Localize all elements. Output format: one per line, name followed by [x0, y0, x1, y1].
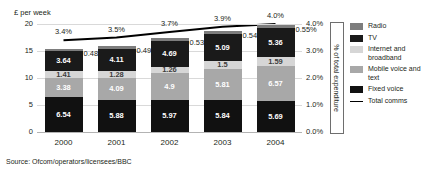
right-axis-title: % of total expenditure	[330, 22, 344, 134]
legend-item[interactable]: Radio	[350, 22, 426, 31]
x-axis-tick: 2002	[151, 138, 189, 147]
bar-segment-internet[interactable]: 1.26	[151, 67, 189, 74]
bar-segment-tv[interactable]: 5.09	[204, 34, 242, 61]
bar-segment-fixed[interactable]: 5.88	[98, 100, 136, 132]
bar-segment-value: 5.69	[268, 113, 283, 121]
legend-swatch-icon	[350, 23, 363, 30]
total-comms-percent-label: 3.7%	[161, 20, 178, 28]
bar-segment-value: 4.09	[109, 85, 124, 93]
legend-swatch-icon	[350, 35, 363, 42]
bar-segment-internet[interactable]: 1.59	[257, 57, 295, 66]
source-note: Source: Ofcom/operators/licensees/BBC	[6, 158, 132, 165]
bar-segment-value: 5.97	[162, 112, 177, 120]
legend-swatch-icon	[350, 98, 363, 105]
left-axis-title: £ per week	[14, 8, 51, 17]
x-axis-tick: 2001	[98, 138, 136, 147]
bar-segment-tv[interactable]: 5.36	[257, 28, 295, 57]
x-axis-tick: 2003	[204, 138, 242, 147]
legend-label: Total comms	[368, 97, 407, 106]
gridline	[37, 132, 302, 133]
bar-segment-value: 6.57	[268, 80, 283, 88]
total-comms-percent-label: 3.4%	[55, 28, 72, 36]
bar-segment-fixed[interactable]: 5.84	[204, 100, 242, 132]
x-axis-tick: 2000	[45, 138, 83, 147]
legend-item[interactable]: TV	[350, 34, 426, 43]
chart-container: £ per week 00.0%51.0%102.0%153.0%204.0%3…	[0, 0, 426, 179]
bar-segment-value: 5.36	[268, 39, 283, 47]
radio-value-callout: 0.54	[243, 32, 258, 40]
bar-group[interactable]: 4.111.284.095.88	[98, 46, 136, 132]
legend-item[interactable]: Total comms	[350, 97, 426, 106]
y-axis-tick-left: 20	[25, 20, 33, 28]
bar-segment-mobile[interactable]: 6.57	[257, 66, 295, 101]
legend-label: Mobile voice and text	[368, 65, 426, 82]
total-comms-percent-label: 3.5%	[108, 26, 125, 34]
bar-segment-value: 5.09	[215, 44, 230, 52]
bar-segment-value: 4.69	[162, 50, 177, 58]
bar-group[interactable]: 5.361.596.575.69	[257, 25, 295, 132]
bar-segment-mobile[interactable]: 4.09	[98, 78, 136, 100]
legend-label: Internet and broadband	[368, 45, 426, 62]
y-axis-tick-right: 1.0%	[306, 101, 323, 109]
bar-segment-mobile[interactable]: 5.81	[204, 69, 242, 100]
legend-label: Radio	[368, 22, 386, 31]
legend-item[interactable]: Mobile voice and text	[350, 65, 426, 82]
bar-segment-value: 5.88	[109, 112, 124, 120]
bar-segment-tv[interactable]: 3.64	[45, 51, 83, 71]
legend-label: Fixed voice	[368, 85, 403, 94]
y-axis-tick-left: 0	[29, 128, 33, 136]
y-axis-tick-right: 2.0%	[306, 74, 323, 82]
bar-group[interactable]: 3.641.413.386.54	[45, 49, 83, 132]
legend-swatch-icon	[350, 86, 363, 93]
bar-segment-value: 5.81	[215, 81, 230, 89]
bar-group[interactable]: 4.691.264.95.97	[151, 38, 189, 132]
bar-segment-tv[interactable]: 4.11	[98, 49, 136, 71]
bar-segment-fixed[interactable]: 5.97	[151, 100, 189, 132]
radio-value-callout: 0.55%	[296, 26, 317, 34]
bar-segment-value: 3.38	[56, 84, 71, 92]
chart-legend: RadioTVInternet and broadbandMobile voic…	[350, 22, 426, 108]
bar-segment-value: 5.84	[215, 112, 230, 120]
y-axis-tick-left: 15	[25, 47, 33, 55]
legend-swatch-icon	[350, 46, 363, 53]
bar-segment-value: 4.11	[109, 56, 123, 64]
bar-segment-fixed[interactable]: 5.69	[257, 101, 295, 132]
bar-segment-value: 1.59	[268, 58, 283, 66]
total-comms-percent-label: 4.0%	[267, 12, 284, 20]
bar-segment-mobile[interactable]: 4.9	[151, 73, 189, 99]
radio-value-callout: 0.48	[84, 50, 99, 58]
bar-segment-value: 1.41	[56, 71, 71, 79]
bar-segment-value: 1.5	[217, 61, 227, 69]
y-axis-tick-left: 10	[25, 74, 33, 82]
x-axis-tick: 2004	[257, 138, 295, 147]
radio-value-callout: 0.49	[137, 47, 152, 55]
radio-value-callout: 0.53	[190, 39, 205, 47]
y-axis-tick-right: 3.0%	[306, 47, 323, 55]
legend-swatch-icon	[350, 66, 363, 73]
bar-segment-mobile[interactable]: 3.38	[45, 78, 83, 96]
legend-item[interactable]: Internet and broadband	[350, 45, 426, 62]
bar-segment-value: 4.9	[164, 83, 174, 91]
plot-area: 00.0%51.0%102.0%153.0%204.0%3.641.413.38…	[37, 24, 302, 132]
bar-segment-internet[interactable]: 1.5	[204, 61, 242, 69]
legend-label: TV	[368, 34, 377, 43]
bar-segment-value: 6.54	[56, 111, 71, 119]
legend-item[interactable]: Fixed voice	[350, 85, 426, 94]
y-axis-tick-right: 0.0%	[306, 128, 323, 136]
bar-segment-fixed[interactable]: 6.54	[45, 97, 83, 132]
y-axis-tick-left: 5	[29, 101, 33, 109]
bar-segment-tv[interactable]: 4.69	[151, 41, 189, 66]
bar-segment-internet[interactable]: 1.28	[98, 71, 136, 78]
bar-group[interactable]: 5.091.55.815.84	[204, 31, 242, 132]
total-comms-percent-label: 3.9%	[214, 15, 231, 23]
bar-segment-internet[interactable]: 1.41	[45, 71, 83, 79]
bar-segment-value: 3.64	[56, 57, 71, 65]
